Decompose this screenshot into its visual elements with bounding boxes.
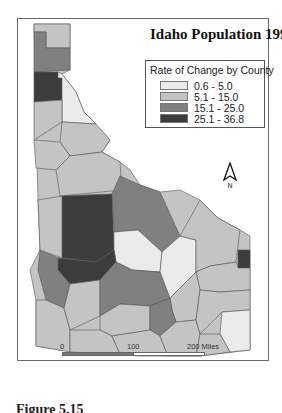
county-valley-adams bbox=[62, 194, 114, 262]
scale-tick: 100 bbox=[127, 342, 140, 351]
legend-item: 15.1 - 25.0 bbox=[160, 102, 244, 113]
county-shoshone bbox=[58, 72, 96, 124]
legend-title: Rate of Change by County bbox=[150, 64, 274, 76]
scale-tick: 200 Miles bbox=[187, 342, 219, 351]
legend-item: 25.1 - 36.8 bbox=[160, 113, 244, 124]
figure-caption: Figure 5.15 bbox=[16, 402, 83, 413]
north-arrow-icon bbox=[222, 162, 238, 182]
county-clearwater bbox=[60, 122, 110, 156]
scale-tick: 0 bbox=[60, 342, 64, 351]
legend-label: 25.1 - 36.8 bbox=[194, 113, 244, 125]
legend-item: 0.6 - 5.0 bbox=[160, 80, 233, 91]
legend-swatch bbox=[160, 81, 188, 90]
county-teton bbox=[238, 250, 250, 268]
north-arrow: N bbox=[222, 162, 238, 192]
legend: Rate of Change by County 0.6 - 5.0 5.1 -… bbox=[145, 60, 265, 128]
scale-segment-empty bbox=[133, 352, 205, 356]
legend-swatch bbox=[160, 103, 188, 112]
scale-segment-filled bbox=[62, 352, 134, 356]
scale-bar: 0 100 200 Miles bbox=[60, 342, 210, 362]
map-title: Idaho Population 1990-95 bbox=[150, 26, 282, 43]
legend-item: 5.1 - 15.0 bbox=[160, 91, 238, 102]
north-label: N bbox=[222, 182, 238, 189]
county-washington bbox=[38, 196, 62, 258]
legend-swatch bbox=[160, 114, 188, 123]
legend-swatch bbox=[160, 92, 188, 101]
